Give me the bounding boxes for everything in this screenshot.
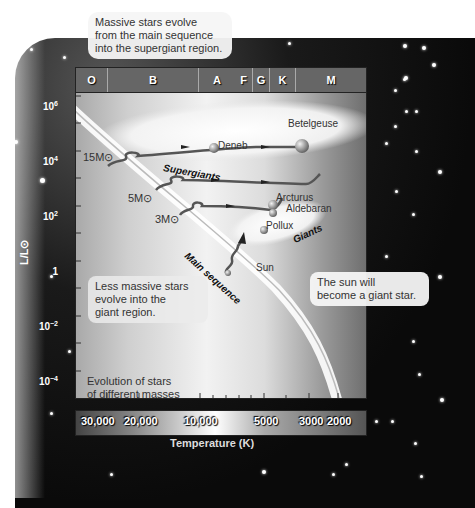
caption-line: of different masses xyxy=(87,388,180,401)
star-dot xyxy=(403,78,406,81)
callout-line: Less massive stars xyxy=(95,280,201,293)
star-dot xyxy=(345,463,348,466)
star-dot xyxy=(68,350,71,353)
star-dot xyxy=(415,150,418,153)
hr-diagram-plot xyxy=(75,67,367,399)
spectral-class-o: O xyxy=(76,68,108,92)
x-axis-label: Temperature (K) xyxy=(170,437,254,449)
mass-label-5: 5M⊙ xyxy=(128,192,152,205)
star-dot xyxy=(418,373,421,376)
x-tick-10000: 10,000 xyxy=(184,415,218,427)
y-tick-1: 1 xyxy=(28,265,58,277)
callout-line: The sun will xyxy=(317,276,422,289)
star-dot xyxy=(394,125,397,128)
star-dot xyxy=(432,63,436,67)
star-dot xyxy=(394,89,397,92)
x-tick-20000: 20,000 xyxy=(124,415,158,427)
spectral-class-k: K xyxy=(270,68,296,92)
star-dot xyxy=(412,213,415,216)
star-dot xyxy=(385,142,388,145)
x-tick-2000: 2000 xyxy=(327,415,351,427)
y-axis-label: L/L⊙ xyxy=(18,240,31,266)
star-dot xyxy=(415,110,418,113)
star-dot xyxy=(422,46,426,50)
star-dot xyxy=(438,170,442,174)
y-tick-1e-2: 10−2 xyxy=(28,320,58,332)
star-dot xyxy=(395,190,398,193)
callout-less-massive: Less massive stars evolve into the giant… xyxy=(88,276,208,323)
caption-line: Evolution of stars xyxy=(87,375,180,388)
label-deneb: Deneb xyxy=(218,140,247,151)
star-dot xyxy=(403,44,407,48)
x-tick-5000: 5000 xyxy=(254,415,278,427)
callout-line: become a giant star. xyxy=(317,289,422,302)
callout-line: evolve into the xyxy=(95,293,201,306)
y-tick-1e-4: 10−4 xyxy=(28,375,58,387)
star-dot xyxy=(40,178,45,183)
label-arcturus: Arcturus xyxy=(276,192,313,203)
x-tick-3000: 3000 xyxy=(299,415,323,427)
star-dot xyxy=(375,420,378,423)
label-aldebaran: Aldebaran xyxy=(286,203,332,214)
star-dot xyxy=(420,475,423,478)
star-dot xyxy=(385,255,388,258)
label-pollux: Pollux xyxy=(266,220,293,231)
star-dot xyxy=(440,398,444,402)
callout-sun-giant: The sun will become a giant star. xyxy=(310,272,429,306)
spectral-class-f: F xyxy=(235,68,253,92)
star-dot xyxy=(288,42,291,45)
callout-line: from the main sequence xyxy=(95,29,225,42)
callout-line: giant region. xyxy=(95,306,201,319)
y-axis-ticks xyxy=(76,96,81,371)
y-tick-1e2: 102 xyxy=(28,210,58,222)
spectral-class-g: G xyxy=(253,68,270,92)
star-dot xyxy=(50,412,53,415)
y-tick-1e4: 104 xyxy=(28,155,58,167)
mass-label-15: 15M⊙ xyxy=(83,151,113,164)
callout-line: Massive stars evolve xyxy=(95,16,225,29)
star-dot xyxy=(405,110,408,113)
star-dot xyxy=(438,275,442,279)
star-dot xyxy=(262,470,266,474)
track-5msun xyxy=(156,174,320,190)
callout-line: into the supergiant region. xyxy=(95,42,225,55)
star-betelgeuse xyxy=(295,139,309,153)
star-dot xyxy=(14,140,18,144)
star-dot xyxy=(63,56,66,59)
star-sun xyxy=(225,270,231,276)
star-dot xyxy=(110,473,113,476)
spectral-class-a: A xyxy=(199,68,235,92)
star-dot xyxy=(414,442,417,445)
label-betelgeuse: Betelgeuse xyxy=(288,118,338,129)
spectral-class-b: B xyxy=(108,68,199,92)
spectral-class-bar: O B A F G K M xyxy=(75,67,367,93)
mass-label-3: 3M⊙ xyxy=(155,213,179,226)
star-aldebaran xyxy=(269,209,277,217)
label-sun: Sun xyxy=(256,262,274,273)
y-tick-1e6: 106 xyxy=(28,100,58,112)
callout-massive-stars: Massive stars evolve from the main seque… xyxy=(88,12,232,59)
star-dot xyxy=(391,420,394,423)
star-dot xyxy=(412,340,415,343)
x-tick-30000: 30,000 xyxy=(81,415,115,427)
star-dot xyxy=(30,48,33,51)
spectral-class-m: M xyxy=(296,68,366,92)
star-dot xyxy=(332,473,335,476)
evolution-caption: Evolution of stars of different masses xyxy=(87,375,180,401)
